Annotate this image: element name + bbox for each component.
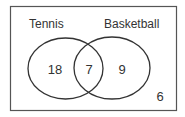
tennis-only-value: 18	[48, 62, 62, 77]
basketball-label: Basketball	[104, 17, 159, 31]
intersection-value: 7	[85, 62, 92, 77]
outside-value: 6	[156, 89, 163, 104]
basketball-only-value: 9	[118, 62, 125, 77]
tennis-label: Tennis	[29, 17, 64, 31]
venn-diagram: Tennis Basketball 18 7 9 6	[0, 0, 185, 117]
